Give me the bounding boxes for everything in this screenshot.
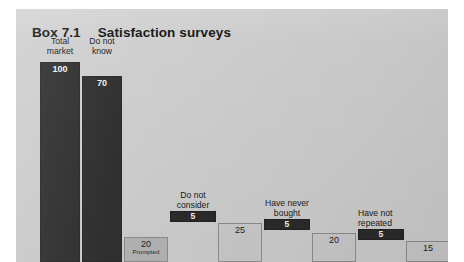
bar-value-do-not-consider: 5 — [170, 212, 216, 221]
bar-have-never-bought[interactable]: 5 — [264, 219, 310, 230]
bar-label-line2: repeated — [358, 218, 392, 228]
bar-prompted[interactable]: 20 Prompted — [124, 237, 168, 262]
bar-column-remainder-15: 15 — [406, 241, 448, 262]
bar-value-total-market: 100 — [40, 64, 80, 74]
bar-remainder-25[interactable]: 25 — [218, 223, 262, 262]
screenshot-root: Box 7.1Satisfaction surveys Total market… — [0, 0, 464, 262]
bar-value-remainder-15: 15 — [406, 243, 448, 253]
bar-column-do-not-know: Do not know 70 — [82, 62, 122, 262]
bar-total-market[interactable]: 100 — [40, 62, 80, 262]
figure-panel: Box 7.1Satisfaction surveys Total market… — [16, 9, 448, 262]
bar-label-line2: market — [47, 46, 73, 56]
bar-label-line1: Do not — [180, 190, 205, 200]
bar-column-do-not-consider: Do not consider 5 — [170, 215, 216, 262]
bar-label-line2: know — [92, 46, 112, 56]
bar-label-do-not-consider: Do not consider — [177, 190, 209, 210]
bar-column-prompted: 20 Prompted — [124, 237, 168, 262]
bar-do-not-know[interactable]: 70 — [82, 76, 122, 262]
bar-column-have-not-repeated: Have not repeated 5 — [358, 233, 404, 262]
bar-column-remainder-25: 25 — [218, 223, 262, 262]
bar-value-remainder-25: 25 — [218, 225, 262, 235]
bar-label-line1: Have never — [265, 198, 309, 208]
bar-label-do-not-know: Do not know — [89, 36, 114, 56]
bar-label-total-market: Total market — [47, 36, 73, 56]
bar-label-line2: bought — [274, 208, 300, 218]
bar-chart: Total market 100 Do not know 70 — [16, 9, 448, 262]
bar-label-have-never-bought: Have never bought — [265, 198, 309, 218]
bar-do-not-consider[interactable]: 5 — [170, 211, 216, 222]
bar-value-have-never-bought: 5 — [264, 220, 310, 229]
bar-remainder-20[interactable]: 20 — [312, 233, 356, 262]
bar-label-line1: Do not — [89, 36, 114, 46]
bar-label-line1: Have not — [358, 208, 392, 218]
bar-have-not-repeated[interactable]: 5 — [358, 229, 404, 240]
bar-label-line2: consider — [177, 200, 209, 210]
bar-value-have-not-repeated: 5 — [358, 230, 404, 239]
bar-column-total-market: Total market 100 — [40, 62, 80, 262]
bar-value-remainder-20: 20 — [312, 235, 356, 245]
bar-column-have-never-bought: Have never bought 5 — [264, 223, 310, 262]
bar-column-remainder-20: 20 — [312, 233, 356, 262]
bar-label-have-not-repeated: Have not repeated — [358, 208, 392, 228]
bar-value-do-not-know: 70 — [82, 78, 122, 88]
bar-label-line1: Total — [51, 36, 69, 46]
bar-remainder-15[interactable]: 15 — [406, 241, 448, 262]
bar-sublabel-prompted: Prompted — [124, 248, 168, 255]
